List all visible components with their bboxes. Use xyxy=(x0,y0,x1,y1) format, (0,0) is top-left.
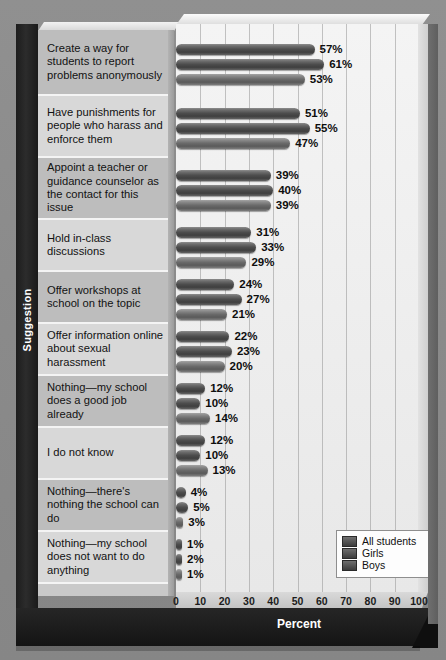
bar xyxy=(176,108,300,119)
category-row: Hold in-class discussions xyxy=(38,220,172,272)
bar-value-label: 1% xyxy=(187,568,204,580)
bar-value-label: 39% xyxy=(276,169,299,181)
bar-value-label: 1% xyxy=(187,538,204,550)
frame-shadow xyxy=(16,646,420,651)
gridline xyxy=(370,24,371,592)
bar-value-label: 29% xyxy=(251,256,274,268)
bar xyxy=(176,59,324,70)
bar-value-label: 20% xyxy=(230,360,253,372)
bar-value-label: 33% xyxy=(261,241,284,253)
legend-swatch-icon xyxy=(342,548,357,559)
bar-value-label: 2% xyxy=(187,553,204,565)
bar-value-label: 61% xyxy=(329,58,352,70)
bar-value-label: 24% xyxy=(239,278,262,290)
y-axis-title-container: Suggestion xyxy=(16,24,38,616)
bar xyxy=(176,450,200,461)
category-row: I do not know xyxy=(38,428,172,480)
legend-label: Girls xyxy=(362,548,384,559)
bar-value-label: 4% xyxy=(191,486,208,498)
bar xyxy=(176,138,290,149)
category-label: Create a way for students to report prob… xyxy=(47,42,164,82)
legend-swatch-icon xyxy=(342,536,357,547)
category-label: Nothing—my school does not want to do an… xyxy=(47,537,164,577)
bar xyxy=(176,279,234,290)
bar-value-label: 5% xyxy=(193,501,210,513)
bar xyxy=(176,331,229,342)
bar-value-label: 39% xyxy=(276,199,299,211)
bar xyxy=(176,502,188,513)
right-shadow-band xyxy=(428,24,438,624)
bar-value-label: 12% xyxy=(210,382,233,394)
bar-value-label: 53% xyxy=(310,73,333,85)
category-label: Have punishments for people who harass a… xyxy=(47,106,164,146)
bar xyxy=(176,398,200,409)
bar xyxy=(176,539,182,550)
bar xyxy=(176,44,315,55)
legend: All studentsGirlsBoys xyxy=(336,530,430,578)
x-axis-tick-label: 80 xyxy=(365,595,377,607)
category-column-edge xyxy=(168,30,174,596)
bar xyxy=(176,123,310,134)
bar xyxy=(176,554,182,565)
bar xyxy=(176,361,225,372)
legend-item: All students xyxy=(342,536,424,547)
bar xyxy=(176,257,246,268)
bar xyxy=(176,487,186,498)
bar xyxy=(176,294,242,305)
bar xyxy=(176,185,273,196)
category-label: Hold in-class discussions xyxy=(47,232,164,259)
category-label: Nothing—my school does a good job alread… xyxy=(47,381,164,421)
category-row: Create a way for students to report prob… xyxy=(38,30,172,96)
category-row: Have punishments for people who harass a… xyxy=(38,96,172,158)
legend-swatch-icon xyxy=(342,560,357,571)
bar xyxy=(176,227,251,238)
x-axis-tick-label: 30 xyxy=(243,595,255,607)
category-row: Offer workshops at school on the topic xyxy=(38,272,172,324)
x-axis-title: Percent xyxy=(176,617,422,631)
gridline xyxy=(395,24,396,592)
category-label-column: Create a way for students to report prob… xyxy=(38,30,172,596)
gridline xyxy=(346,24,347,592)
bar-value-label: 27% xyxy=(247,293,270,305)
x-axis-tick-label: 40 xyxy=(267,595,279,607)
bar-value-label: 21% xyxy=(232,308,255,320)
category-label: Offer information online about sexual ha… xyxy=(47,329,164,369)
bar-value-label: 10% xyxy=(205,397,228,409)
category-row: Nothing—my school does a good job alread… xyxy=(38,376,172,428)
x-axis-tick-label: 0 xyxy=(173,595,179,607)
bar-value-label: 57% xyxy=(320,43,343,55)
legend-item: Girls xyxy=(342,548,424,559)
legend-item: Boys xyxy=(342,560,424,571)
category-row: Appoint a teacher or guidance counselor … xyxy=(38,158,172,220)
bar-value-label: 55% xyxy=(315,122,338,134)
bar xyxy=(176,435,205,446)
category-label: Offer workshops at school on the topic xyxy=(47,284,164,311)
x-axis-tick-label: 90 xyxy=(389,595,401,607)
bar xyxy=(176,383,205,394)
bar xyxy=(176,413,210,424)
plot-right-edge xyxy=(418,24,428,592)
bar xyxy=(176,569,182,580)
x-axis-tick-label: 20 xyxy=(219,595,231,607)
bar xyxy=(176,465,208,476)
bar-value-label: 13% xyxy=(213,464,236,476)
bar-value-label: 47% xyxy=(295,137,318,149)
bar-value-label: 3% xyxy=(188,516,205,528)
bar xyxy=(176,517,183,528)
category-row: Offer information online about sexual ha… xyxy=(38,324,172,376)
category-label: Nothing—there's nothing the school can d… xyxy=(47,485,164,525)
bar xyxy=(176,242,256,253)
x-axis-tick-label: 10 xyxy=(194,595,206,607)
legend-label: Boys xyxy=(362,560,385,571)
x-axis-tick-label: 60 xyxy=(316,595,328,607)
bar-value-label: 51% xyxy=(305,107,328,119)
legend-label: All students xyxy=(362,536,416,547)
bar-value-label: 31% xyxy=(256,226,279,238)
bar xyxy=(176,309,227,320)
category-row: Nothing—my school does not want to do an… xyxy=(38,532,172,584)
x-axis-tick-label: 100 xyxy=(410,595,428,607)
bar-value-label: 40% xyxy=(278,184,301,196)
bar-value-label: 22% xyxy=(234,330,257,342)
bar xyxy=(176,170,271,181)
x-axis-tick-label: 50 xyxy=(292,595,304,607)
